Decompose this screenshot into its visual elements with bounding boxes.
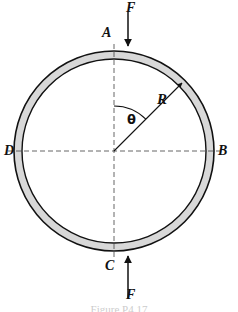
radius-indicator xyxy=(114,83,182,151)
point-label-b: B xyxy=(218,144,227,158)
angle-label: θ xyxy=(127,113,136,126)
radius-line xyxy=(114,83,182,151)
centerlines xyxy=(8,44,222,258)
point-label-a: A xyxy=(102,26,111,40)
radius-label: R xyxy=(157,92,167,107)
force-label-bottom: F xyxy=(126,288,135,302)
point-label-c: C xyxy=(105,259,114,273)
figure-container: F A B C D F R θ Figure P4.17 xyxy=(0,0,238,312)
point-label-d: D xyxy=(4,144,14,158)
figure-caption: Figure P4.17 xyxy=(0,303,238,312)
ring-diagram-svg xyxy=(0,0,238,312)
force-label-top: F xyxy=(126,1,135,15)
